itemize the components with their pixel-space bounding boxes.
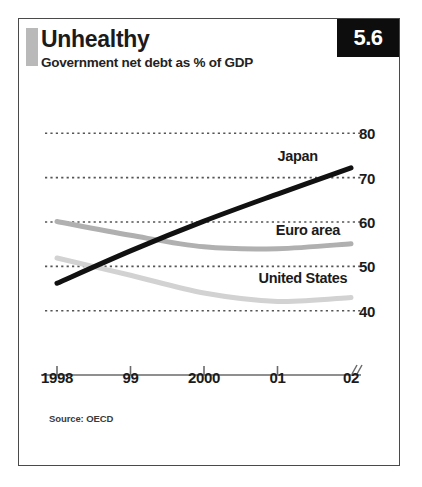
source-note: Source: OECD — [49, 413, 113, 424]
chart-canvas — [19, 19, 401, 467]
y-axis-label-40: 40 — [359, 302, 375, 319]
x-axis-label-1998: 1998 — [41, 369, 73, 386]
x-axis-label-99: 99 — [122, 369, 138, 386]
series-label-united-states: United States — [259, 270, 348, 286]
figure-root: Unhealthy Government net debt as % of GD… — [0, 0, 422, 487]
x-axis-label-02: 02 — [343, 369, 359, 386]
y-axis-label-80: 80 — [359, 125, 375, 142]
plot-area: 4050607080 19989920000102 JapanEuro area… — [19, 19, 401, 467]
series-label-japan: Japan — [278, 148, 318, 164]
y-axis-label-60: 60 — [359, 214, 375, 231]
series-label-euro-area: Euro area — [276, 222, 340, 238]
x-axis-label-2000: 2000 — [188, 369, 220, 386]
chart-panel: Unhealthy Government net debt as % of GD… — [18, 18, 400, 466]
y-axis-label-70: 70 — [359, 169, 375, 186]
x-axis-label-01: 01 — [269, 369, 285, 386]
y-axis-label-50: 50 — [359, 258, 375, 275]
